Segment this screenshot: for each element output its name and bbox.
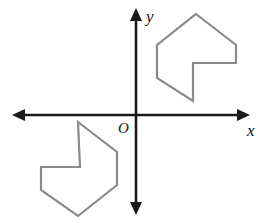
x-axis-label: x bbox=[246, 121, 255, 140]
origin-label: O bbox=[118, 120, 129, 136]
figure-canvas: x y O bbox=[0, 0, 274, 223]
y-axis-label: y bbox=[144, 7, 154, 26]
coordinate-plane-figure: x y O bbox=[0, 0, 274, 223]
